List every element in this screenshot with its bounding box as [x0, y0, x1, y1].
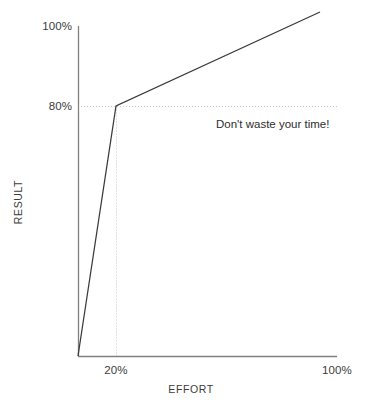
x-axis-title: EFFORT: [155, 383, 227, 395]
chart-annotation-dont-waste-your-time: Don't waste your time!: [216, 118, 329, 130]
chart-plot-area: [0, 0, 367, 406]
x-axis-tick-20: 20%: [90, 364, 142, 376]
y-axis-tick-100: 100%: [36, 20, 72, 32]
pareto-curve: [78, 12, 320, 356]
pareto-chart: 100% 80% 20% 100% RESULT EFFORT Don't wa…: [0, 0, 367, 406]
x-axis-tick-100: 100%: [311, 364, 363, 376]
y-axis-title: RESULT: [12, 167, 24, 237]
y-axis-tick-80: 80%: [36, 100, 72, 112]
